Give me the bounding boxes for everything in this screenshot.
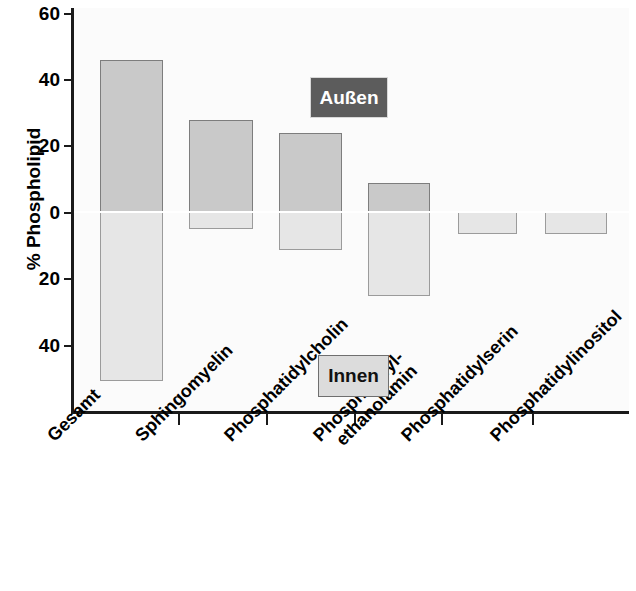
bar-inner-phosphatidylcholin [279,212,342,250]
y-tick-label-40: 40 [12,70,60,89]
y-tick-label-0: 0 [12,203,60,222]
y-tick-label-20: 20 [12,136,60,155]
bar-inner-phosphatidylinositol [545,212,607,234]
legend-chip-innen: Innen [318,355,389,397]
bar-inner-phosphatidylethanolamin [368,212,430,296]
x-tick-mark-2 [266,414,268,425]
y-tick-label-minus20: 20 [12,269,60,288]
x-tick-mark-4 [441,414,443,425]
bar-outer-gesamt [100,60,163,213]
zero-baseline [74,211,629,213]
bar-outer-sphingomyelin [189,120,253,213]
bar-inner-phosphatidylserin [458,212,517,234]
bar-outer-phosphatidylethanolamin [368,183,430,213]
chart-figure: % Phospholipid 60 40 20 0 20 40 Außen In… [0,0,636,591]
bar-outer-phosphatidylcholin [279,133,342,213]
y-tick-label-60: 60 [12,4,60,23]
legend-chip-aussen: Außen [310,77,388,118]
x-tick-mark-1 [178,414,180,425]
x-tick-mark-5 [532,414,534,425]
bar-inner-sphingomyelin [189,212,253,229]
bar-inner-gesamt [100,212,163,381]
y-tick-label-minus40: 40 [12,336,60,355]
